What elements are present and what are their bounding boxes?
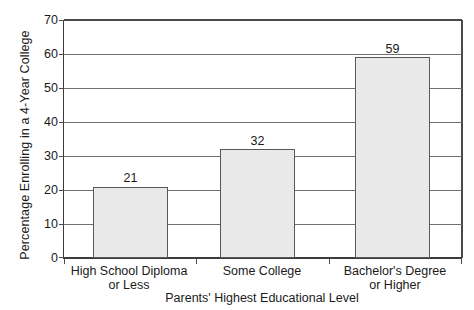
bar-value-label-0: 21 (124, 172, 138, 185)
x-category-label-2-line1: Bachelor's Degree (344, 264, 446, 278)
x-category-label-0-line2: or Less (63, 278, 195, 292)
y-tick-mark-40 (59, 122, 64, 123)
x-category-label-1: Some College (196, 264, 328, 278)
y-tick-label-40: 40 (28, 116, 58, 129)
y-tick-label-20: 20 (28, 184, 58, 197)
gridline-60 (64, 54, 462, 55)
y-tick-mark-20 (59, 190, 64, 191)
x-category-label-2: Bachelor's Degree or Higher (329, 264, 461, 292)
y-tick-label-0: 0 (28, 252, 58, 265)
x-category-label-1-line1: Some College (223, 264, 302, 278)
plot-frame-right (461, 20, 462, 258)
y-tick-mark-10 (59, 224, 64, 225)
y-tick-label-30: 30 (28, 150, 58, 163)
y-tick-label-10: 10 (28, 218, 58, 231)
y-tick-mark-60 (59, 54, 64, 55)
y-tick-label-70: 70 (28, 14, 58, 27)
x-category-label-0: High School Diploma or Less (63, 264, 195, 292)
x-tick-mark-3 (461, 258, 462, 264)
plot-frame-top (64, 19, 462, 20)
plot-area: 21 32 59 (63, 20, 462, 258)
bar-high-school-diploma-or-less[interactable]: 21 (93, 187, 168, 258)
y-tick-label-60: 60 (28, 48, 58, 61)
y-tick-mark-70 (59, 20, 64, 21)
bar-chart: Percentage Enrolling in a 4-Year College… (0, 0, 474, 310)
bar-some-college[interactable]: 32 (220, 149, 295, 258)
y-tick-label-50: 50 (28, 82, 58, 95)
y-tick-mark-50 (59, 88, 64, 89)
bar-value-label-2: 59 (386, 43, 400, 56)
bar-value-label-1: 32 (251, 135, 265, 148)
x-axis-title: Parents' Highest Educational Level (63, 292, 461, 305)
bar-bachelors-degree-or-higher[interactable]: 59 (355, 57, 430, 258)
y-tick-mark-30 (59, 156, 64, 157)
x-category-label-2-line2: or Higher (329, 278, 461, 292)
x-category-label-0-line1: High School Diploma (71, 264, 188, 278)
